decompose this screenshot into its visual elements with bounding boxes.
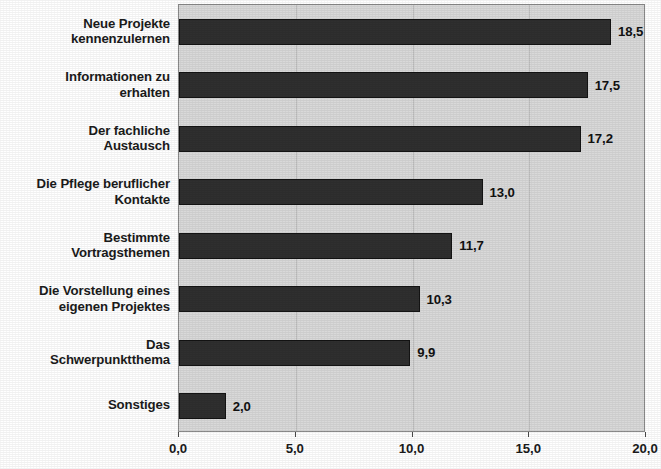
plot-area: 18,517,517,213,011,710,39,92,0 — [178, 4, 645, 432]
bar — [179, 179, 483, 205]
bar-row: 11,7 — [179, 233, 484, 259]
axis-tick-label: 15,0 — [516, 441, 541, 456]
bar-value-label: 9,9 — [417, 345, 435, 360]
bar-row: 17,2 — [179, 126, 613, 152]
axis-tick-label: 10,0 — [399, 441, 424, 456]
axis-tick-label: 0,0 — [169, 441, 187, 456]
value-axis: 0,05,010,015,020,0 — [178, 432, 645, 469]
category-label: Die Pflege beruflicher Kontakte — [0, 176, 170, 207]
axis-tick — [178, 432, 179, 437]
bar-row: 9,9 — [179, 340, 435, 366]
bar — [179, 393, 226, 419]
category-label: Neue Projekte kennenzulernen — [0, 15, 170, 46]
bars-layer: 18,517,517,213,011,710,39,92,0 — [179, 5, 644, 431]
bar-value-label: 10,3 — [427, 292, 452, 307]
axis-tick — [295, 432, 296, 437]
category-label: Informationen zu erhalten — [0, 69, 170, 100]
bar — [179, 72, 588, 98]
category-label: Die Vorstellung eines eigenen Projektes — [0, 283, 170, 314]
bar-row: 2,0 — [179, 393, 251, 419]
axis-tick — [645, 432, 646, 437]
bar — [179, 340, 410, 366]
axis-tick — [412, 432, 413, 437]
bar-value-label: 11,7 — [459, 238, 484, 253]
bar-value-label: 18,5 — [618, 24, 643, 39]
bar-row: 13,0 — [179, 179, 515, 205]
bar-value-label: 17,5 — [595, 78, 620, 93]
bar-value-label: 2,0 — [233, 399, 251, 414]
bar-row: 17,5 — [179, 72, 620, 98]
bar-chart: Neue Projekte kennenzulernenInformatione… — [0, 0, 661, 469]
axis-tick-label: 5,0 — [286, 441, 304, 456]
bar-row: 10,3 — [179, 286, 452, 312]
bar — [179, 286, 420, 312]
axis-tick — [528, 432, 529, 437]
bar-value-label: 17,2 — [588, 131, 613, 146]
bar — [179, 126, 581, 152]
bar — [179, 19, 611, 45]
bar — [179, 233, 452, 259]
category-label: Das Schwerpunktthema — [0, 336, 170, 367]
bar-value-label: 13,0 — [490, 185, 515, 200]
axis-tick-label: 20,0 — [632, 441, 657, 456]
category-label: Sonstiges — [0, 398, 170, 414]
bar-row: 18,5 — [179, 19, 643, 45]
category-label: Der fachliche Austausch — [0, 122, 170, 153]
category-axis: Neue Projekte kennenzulernenInformatione… — [0, 4, 174, 432]
category-label: Bestimmte Vortragsthemen — [0, 229, 170, 260]
